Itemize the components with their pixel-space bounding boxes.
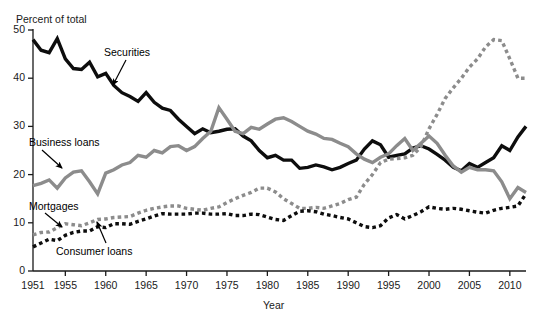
y-tick-label: 30 [0, 119, 25, 131]
x-tick-label: 1980 [247, 279, 287, 291]
x-tick-label: 2005 [449, 279, 489, 291]
annotation-arrow-business-loans [42, 150, 62, 168]
x-tick-label: 2000 [409, 279, 449, 291]
y-tick-label: 50 [0, 23, 25, 35]
series-line-business-loans [33, 108, 526, 199]
y-tick-label: 40 [0, 71, 25, 83]
x-tick-label: 1960 [86, 279, 126, 291]
chart-plot-area [0, 0, 539, 317]
chart-figure: Percent of total Year 010203040501951195… [0, 0, 539, 317]
annotation-arrow-consumer-loans [97, 222, 106, 243]
annotation-label-business-loans: Business loans [29, 136, 100, 148]
x-tick-label: 1965 [126, 279, 166, 291]
x-tick-label: 1990 [328, 279, 368, 291]
y-tick-label: 0 [0, 264, 25, 276]
x-tick-label: 1975 [207, 279, 247, 291]
x-tick-label: 1970 [167, 279, 207, 291]
annotation-arrow-mortgages [45, 213, 62, 227]
y-tick-label: 20 [0, 168, 25, 180]
annotation-arrow-securities [113, 60, 126, 85]
x-tick-label: 1985 [288, 279, 328, 291]
annotation-label-consumer-loans: Consumer loans [56, 245, 132, 257]
x-tick-label: 1995 [369, 279, 409, 291]
annotation-label-securities: Securities [104, 46, 150, 58]
annotation-label-mortgages: Mortgages [29, 200, 79, 212]
x-tick-label: 1955 [45, 279, 85, 291]
series-line-securities [33, 39, 526, 171]
y-tick-label: 10 [0, 216, 25, 228]
x-tick-label: 2010 [490, 279, 530, 291]
series-line-mortgages [33, 40, 526, 235]
